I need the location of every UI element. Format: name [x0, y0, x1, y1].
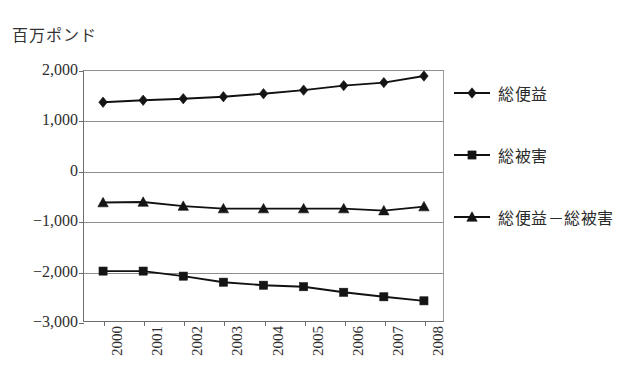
y-axis-tick-label: 0 — [2, 162, 78, 180]
legend-item-1[interactable]: 総便益 — [452, 82, 548, 104]
data-point-marker-diamond — [179, 94, 188, 104]
x-axis-tick-label-text: 2000 — [109, 326, 126, 356]
series-group — [99, 267, 428, 305]
chart-legend: 総便益総被害総便益－総被害 — [452, 60, 642, 240]
x-axis-tick-label: 2002 — [183, 326, 200, 356]
series-plot — [83, 70, 444, 322]
y-axis-tick-label: 2,000 — [2, 61, 78, 79]
x-axis-tick-label: 2006 — [344, 326, 361, 356]
x-axis-tick-label: 2004 — [264, 326, 281, 356]
legend-label: 総被害 — [498, 143, 548, 167]
x-axis-tick-label-text: 2002 — [189, 326, 206, 356]
data-point-marker-diamond — [219, 92, 228, 102]
data-point-marker-diamond — [99, 97, 108, 107]
y-axis-tick-label: −3,000 — [2, 313, 78, 331]
data-point-marker-diamond — [380, 77, 389, 87]
data-point-marker-diamond — [259, 88, 268, 98]
legend-marker-square-icon — [452, 145, 492, 165]
data-point-marker-square — [420, 297, 428, 305]
x-axis-tick-label-text: 2001 — [149, 326, 166, 356]
data-point-marker-square — [340, 288, 348, 296]
y-axis-tick-label: −2,000 — [2, 263, 78, 281]
legend-item-3[interactable]: 総便益－総被害 — [452, 206, 614, 228]
x-axis-tick-label: 2003 — [223, 326, 240, 356]
y-axis-tick-label: −1,000 — [2, 212, 78, 230]
data-point-marker-diamond — [339, 80, 348, 90]
x-axis-tick-label-text: 2006 — [349, 326, 366, 356]
data-point-marker-square — [179, 272, 187, 280]
chart-root: 百万ポンド 2,0001,0000−1,000−2,000−3,000 2000… — [0, 0, 644, 378]
legend-item-2[interactable]: 総被害 — [452, 144, 548, 166]
y-axis-tick-label-group: 2,0001,0000−1,000−2,000−3,000 — [0, 0, 78, 378]
legend-label: 総便益 — [498, 81, 548, 105]
legend-label: 総便益－総被害 — [498, 205, 614, 229]
data-point-marker-diamond — [139, 95, 148, 105]
data-point-marker-diamond — [420, 71, 429, 81]
data-point-marker-square — [219, 278, 227, 286]
x-axis-tick-label-group: 200020012002200320042005200620072008 — [83, 326, 444, 378]
data-point-marker-square — [259, 281, 267, 289]
x-axis-tick-label: 2005 — [304, 326, 321, 356]
data-point-marker-diamond — [299, 85, 308, 95]
data-point-marker-square — [139, 267, 147, 275]
data-point-marker-square — [468, 151, 476, 159]
x-axis-tick-label-text: 2004 — [269, 326, 286, 356]
x-axis-tick-label: 2007 — [384, 326, 401, 356]
x-axis-tick-label: 2000 — [103, 326, 120, 356]
y-axis-tick-mark — [79, 323, 84, 324]
x-axis-tick-label: 2001 — [143, 326, 160, 356]
x-axis-tick-label-text: 2005 — [309, 326, 326, 356]
data-point-marker-diamond — [468, 88, 477, 98]
data-point-marker-square — [99, 267, 107, 275]
x-axis-tick-label-text: 2003 — [229, 326, 246, 356]
series-group — [99, 71, 428, 108]
y-axis-tick-label: 1,000 — [2, 111, 78, 129]
x-axis-tick-label-text: 2007 — [390, 326, 407, 356]
legend-marker-triangle-icon — [452, 207, 492, 227]
legend-marker-diamond-icon — [452, 83, 492, 103]
data-point-marker-square — [380, 293, 388, 301]
series-group — [98, 197, 429, 215]
data-point-marker-square — [300, 283, 308, 291]
x-axis-tick-label-text: 2008 — [430, 326, 447, 356]
x-axis-tick-label: 2008 — [424, 326, 441, 356]
